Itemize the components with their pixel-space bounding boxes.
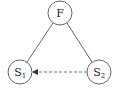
- node-s1-label: S: [14, 66, 22, 79]
- edge-f-s2: [67, 23, 92, 62]
- node-s2: S 2: [87, 60, 111, 84]
- node-f-label: F: [56, 7, 64, 20]
- node-f: F: [48, 1, 72, 25]
- graph-diagram: F S 1 S 2: [0, 0, 120, 90]
- node-s1-subscript: 1: [22, 72, 26, 80]
- node-s2-subscript: 2: [101, 72, 105, 80]
- node-s2-label: S: [93, 66, 101, 79]
- edge-f-s1: [27, 23, 53, 62]
- node-s1: S 1: [8, 60, 32, 84]
